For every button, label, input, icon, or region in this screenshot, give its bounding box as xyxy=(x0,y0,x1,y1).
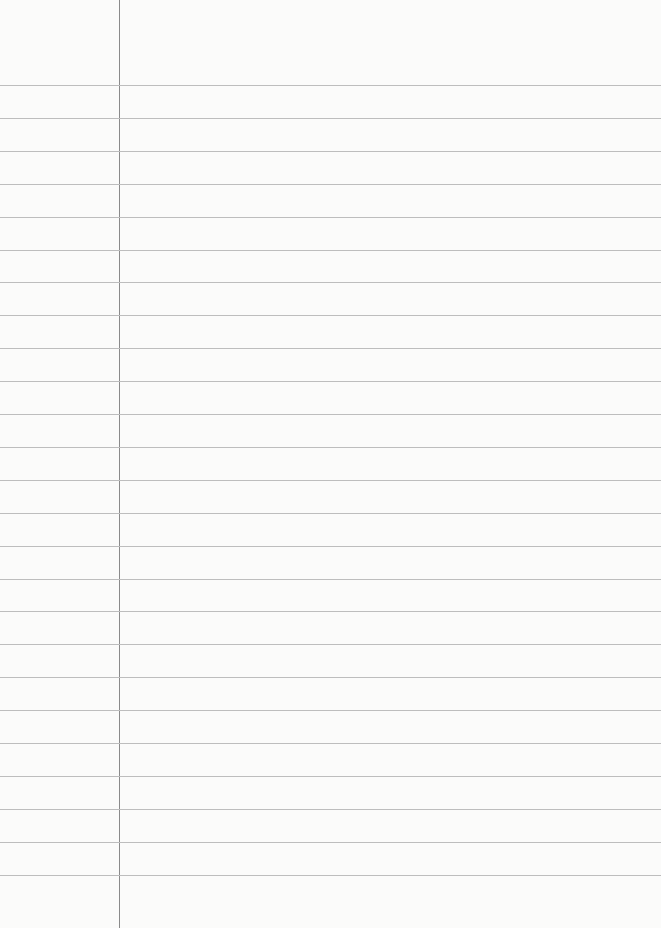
ruled-line xyxy=(0,546,661,547)
ruled-line xyxy=(0,513,661,514)
ruled-line xyxy=(0,644,661,645)
ruled-line xyxy=(0,348,661,349)
ruled-line xyxy=(0,414,661,415)
ruled-line xyxy=(0,611,661,612)
ruled-line xyxy=(0,381,661,382)
ruled-line xyxy=(0,809,661,810)
ruled-line xyxy=(0,151,661,152)
ruled-line xyxy=(0,875,661,876)
ruled-line xyxy=(0,579,661,580)
ruled-line xyxy=(0,118,661,119)
ruled-line xyxy=(0,85,661,86)
ruled-line xyxy=(0,480,661,481)
ruled-line xyxy=(0,677,661,678)
ruled-line xyxy=(0,217,661,218)
ruled-line xyxy=(0,447,661,448)
ruled-line xyxy=(0,743,661,744)
margin-line xyxy=(119,0,120,928)
ruled-line xyxy=(0,184,661,185)
ruled-line xyxy=(0,282,661,283)
ruled-line xyxy=(0,315,661,316)
ruled-line xyxy=(0,776,661,777)
ruled-line xyxy=(0,710,661,711)
ruled-line xyxy=(0,842,661,843)
ruled-line xyxy=(0,250,661,251)
